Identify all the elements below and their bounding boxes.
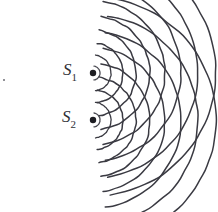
source-label-s1-main: S xyxy=(63,60,72,79)
source-label-s1-sub: 1 xyxy=(72,71,78,83)
source-label-s2-main: S xyxy=(62,107,71,126)
wavefront-arc xyxy=(108,0,198,177)
source-label-s2-sub: 2 xyxy=(71,118,77,130)
wave-interference-figure: S1 S2 xyxy=(0,0,218,212)
wavefront-arc xyxy=(110,0,216,195)
source-dot-s2 xyxy=(90,117,96,123)
wavefront-arc xyxy=(95,55,111,91)
wavefront-arc xyxy=(95,102,111,138)
wavefront-canvas xyxy=(0,0,218,212)
source-label-s2: S2 xyxy=(62,108,76,128)
source-label-s1: S1 xyxy=(63,61,77,81)
source-dot-s1 xyxy=(90,70,96,76)
source-dots-group xyxy=(90,70,96,123)
wavefront-arc xyxy=(105,33,181,207)
wavefront-arcs-group xyxy=(94,0,216,212)
stray-dot-artifact xyxy=(3,79,5,81)
